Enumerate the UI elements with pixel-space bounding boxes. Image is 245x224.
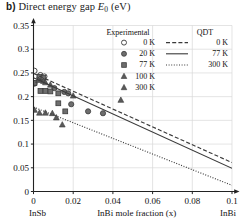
x-axis-arrow [234,189,239,194]
legend-label-experimental: 0 K [143,38,155,47]
x-tick-label: 0.06 [145,196,161,206]
legend-label-experimental: 20 K [139,49,155,58]
data-point-filled-circle [85,109,90,114]
chart-canvas: 00.050.10.150.20.250.30.3500.020.040.060… [0,0,245,224]
data-point-square [56,101,61,106]
y-tick-label: 0.35 [13,21,29,31]
x-tick-label: 0 [31,196,36,206]
legend-label-experimental: 100 K [135,72,155,81]
x-axis-right-end-label: InBi [220,208,237,218]
series-line-7 [34,107,233,185]
y-tick-label: 0.1 [18,139,29,149]
data-point-square [38,89,43,94]
x-tick-label: 0.08 [184,196,200,206]
data-point-triangle [49,110,55,115]
data-point-filled-circle [69,102,74,107]
data-point-square [48,89,53,94]
legend-label-experimental: 300 K [135,83,155,92]
data-point-triangle [118,97,124,102]
legend-label-experimental: 77 K [139,60,155,69]
data-point-filled-circle [100,111,105,116]
legend-marker-square [122,63,127,68]
y-tick-label: 0.05 [13,163,29,173]
legend-marker-triangle [121,73,127,78]
data-point-square [63,109,68,114]
data-point-square [56,91,61,96]
x-tick-label: 0.1 [226,196,237,206]
x-axis-left-end-label: InSb [29,208,47,218]
legend-header-qdt: QDT [197,28,214,37]
y-axis-arrow [31,18,36,23]
legend-marker-filled-circle [122,51,127,56]
x-tick-label: 0.02 [65,196,81,206]
y-tick-label: 0.2 [18,92,29,102]
x-tick-label: 0.04 [105,196,121,206]
series-line-5 [34,73,233,162]
legend-marker-open-circle [122,40,127,45]
x-axis-label: InBi mole fraction (x) [97,208,176,218]
legend-label-qdt: 300 K [208,60,228,69]
data-point-triangle [59,122,65,127]
y-tick-label: 0.15 [13,116,29,126]
legend-marker-triangle [121,84,127,89]
y-tick-label: 0.3 [18,44,30,54]
legend-header-experimental: Experimental [106,28,150,37]
y-tick-label: 0.25 [13,68,29,78]
y-tick-label: 0 [25,187,30,197]
data-point-square [43,89,48,94]
legend-label-qdt: 0 K [216,38,228,47]
figure-panel: b) Direct energy gap E0 (eV) 00.050.10.1… [0,0,245,224]
legend-label-qdt: 77 K [212,49,228,58]
